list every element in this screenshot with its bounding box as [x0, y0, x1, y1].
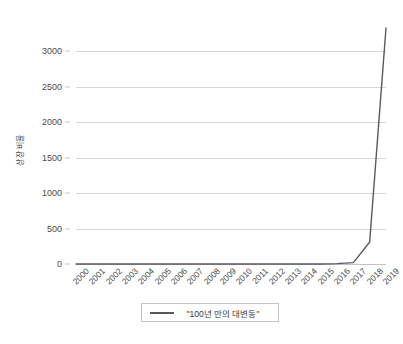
line-chart: 상장 비율 050010001500200025003000 200020012…: [0, 0, 403, 344]
x-tick-label-2017: 2017: [348, 266, 368, 286]
x-tick-label-2007: 2007: [185, 266, 205, 286]
data-series-line: [76, 16, 386, 264]
chart-legend[interactable]: "100년 만의 대변동": [141, 303, 279, 322]
x-tick-label-2002: 2002: [103, 266, 123, 286]
x-tick-label-2018: 2018: [364, 266, 384, 286]
x-tick-label-2008: 2008: [201, 266, 221, 286]
x-tick-label-2014: 2014: [299, 266, 319, 286]
plot-area: [76, 16, 386, 264]
x-tick-label-2005: 2005: [152, 266, 172, 286]
x-tick-label-2012: 2012: [266, 266, 286, 286]
x-tick-label-2011: 2011: [251, 266, 271, 286]
y-axis-tick-labels: 050010001500200025003000: [0, 16, 70, 264]
y-tick-label-1000: 1000: [42, 188, 62, 198]
y-tick-mark-500: [65, 228, 70, 229]
y-tick-label-2000: 2000: [42, 117, 62, 127]
x-tick-label-2019: 2019: [381, 266, 401, 286]
y-tick-mark-3000: [65, 51, 70, 52]
y-tick-label-0: 0: [57, 259, 62, 269]
legend-label: "100년 만의 대변동": [174, 307, 278, 319]
x-tick-label-2004: 2004: [136, 266, 156, 286]
y-tick-mark-2500: [65, 86, 70, 87]
y-tick-label-2500: 2500: [42, 82, 62, 92]
x-tick-label-2001: 2001: [87, 266, 107, 286]
y-tick-label-3000: 3000: [42, 46, 62, 56]
y-tick-mark-2000: [65, 122, 70, 123]
y-tick-mark-1000: [65, 193, 70, 194]
y-tick-label-1500: 1500: [42, 153, 62, 163]
y-tick-mark-1500: [65, 157, 70, 158]
x-axis-tick-labels: 2000200120022003200420052006200720082009…: [76, 266, 386, 306]
y-tick-mark-0: [65, 264, 70, 265]
legend-line-swatch: [150, 312, 174, 314]
x-tick-label-2015: 2015: [315, 266, 335, 286]
y-tick-label-500: 500: [47, 224, 62, 234]
